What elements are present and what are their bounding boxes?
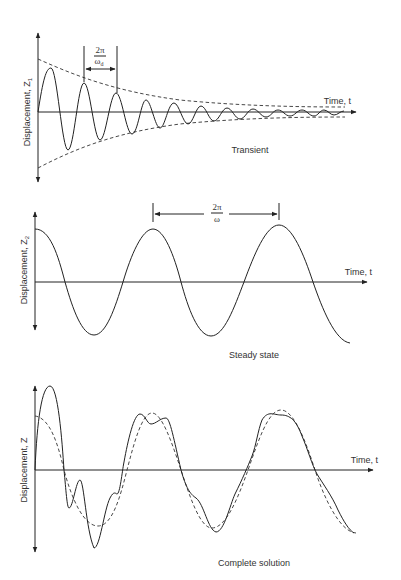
panel-caption: Steady state [229, 350, 279, 360]
y-axis-label: Displacement, Z1 [22, 77, 33, 146]
time-axis-label: Time, t [345, 267, 373, 277]
steady-state-panel: 2π ω Time, t Displacement, Z2 Steady sta… [19, 202, 372, 360]
complete-solution-panel: Time, t Displacement, Z Complete solutio… [19, 386, 378, 568]
steady-state-dashed-curve [35, 410, 356, 533]
y-axis-label: Displacement, Z2 [19, 235, 30, 304]
y-axis-label: Displacement, Z [19, 437, 29, 503]
time-axis-label: Time, t [324, 96, 352, 106]
envelope-lower [38, 117, 345, 168]
period-numerator: 2π [95, 45, 105, 55]
time-axis-label: Time, t [351, 455, 379, 465]
period-denominator: ωd [95, 56, 104, 67]
complete-solution-curve [35, 386, 354, 548]
steady-state-curve [35, 225, 350, 343]
period-numerator: 2π [212, 202, 222, 212]
period-denominator: ω [214, 214, 220, 224]
panel-caption: Complete solution [218, 558, 290, 568]
vibration-response-figure: 2π ωd Time, t Displacement, Z1 Transient… [0, 0, 401, 580]
transient-panel: 2π ωd Time, t Displacement, Z1 Transient [22, 33, 356, 182]
panel-caption: Transient [231, 145, 269, 155]
